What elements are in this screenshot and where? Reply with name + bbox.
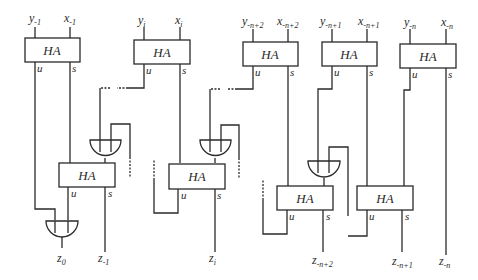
ha-label: HA [42,43,60,58]
carry-port-label: u [334,66,340,78]
input-y-label: y-1 [28,11,41,27]
sum-port-label: s [369,66,373,78]
input-x-label: x-n [440,15,453,31]
sum-port-label: s [182,64,186,76]
input-x-label: x-1 [63,11,76,27]
output-z-1-label: z-1 [97,251,109,267]
ha-label: HA [187,169,205,184]
input-x-label: xi [174,13,183,29]
carry-port-label: u [289,210,295,222]
carry-port-label: u [37,62,43,74]
half-adder-top-5: HA y-n x-n u s [400,15,456,80]
ha-label: HA [339,47,357,62]
sum-port-label: s [217,189,221,201]
output-z0-label: z0 [56,251,66,267]
input-y-label: y-n+2 [241,14,263,30]
sum-port-label: s [326,210,330,222]
ha-label: HA [152,45,170,60]
carry-port-label: u [255,66,261,78]
ha-label: HA [77,168,95,183]
half-adder-top-3: HA y-n+2 x-n+2 u s [241,14,298,78]
or-gate-final [46,221,78,248]
or-gate-3 [308,161,340,177]
output-zi-label: zi [208,251,216,267]
output-z-n+1-label: z-n+1 [391,254,413,270]
input-y-label: y-n+1 [319,14,341,30]
half-adder-bottom-4: HA u s [357,186,413,222]
or-gate-2 [200,140,231,156]
sum-port-label: s [448,68,452,80]
ha-label: HA [375,191,393,206]
output-z-n+2-label: z-n+2 [311,253,333,269]
circuit-diagram: HA y-1 x-1 u s HA yi xi u s HA y-n+2 x-n… [0,0,478,280]
sum-port-label: s [72,62,76,74]
input-y-label: y-n [403,15,416,31]
half-adder-top-4: HA y-n+1 x-n+1 u s [319,14,379,78]
output-z-n-label: z-n [438,254,450,270]
carry-port-label: u [71,187,77,199]
input-x-label: x-n+1 [357,14,379,30]
sum-port-label: s [108,187,112,199]
ha-label: HA [260,47,278,62]
carry-port-label: u [181,189,187,201]
input-x-label: x-n+2 [276,14,298,30]
carry-port-label: u [412,68,418,80]
carry-port-label: u [369,210,375,222]
or-gate-1 [90,140,121,156]
half-adder-top-1: HA y-1 x-1 u s [25,11,80,74]
half-adder-bottom-3: HA u s [277,186,333,222]
half-adder-top-2: HA yi xi u s [134,13,190,76]
ha-label: HA [295,191,313,206]
input-y-label: yi [137,13,146,29]
sum-port-label: s [405,210,409,222]
sum-port-label: s [290,66,294,78]
carry-port-label: u [146,64,152,76]
ha-label: HA [418,49,436,64]
